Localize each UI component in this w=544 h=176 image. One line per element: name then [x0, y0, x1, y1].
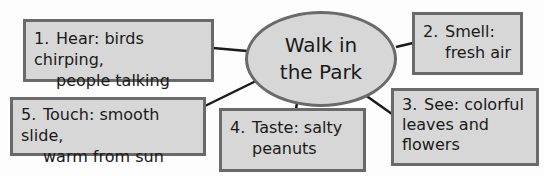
node-label: Taste: salty — [252, 118, 342, 137]
center-line-2: the Park — [280, 59, 362, 86]
node-continuation: peanuts — [230, 138, 355, 159]
node-hear: 1.Hear: birds chirping, people talking — [23, 19, 214, 82]
node-continuation: leaves and — [402, 115, 528, 135]
node-see: 3.See: colorful leaves and flowers — [391, 88, 539, 166]
node-number: 3. — [402, 95, 424, 115]
central-topic-ellipse: Walk in the Park — [245, 11, 397, 107]
node-continuation: people talking — [34, 70, 203, 91]
node-touch: 5.Touch: smooth slide, warm from sun — [10, 97, 206, 156]
node-label: Smell: — [445, 22, 495, 41]
node-continuation-2: flowers — [402, 135, 528, 155]
node-label: See: colorful — [424, 95, 524, 114]
node-smell: 2.Smell: fresh air — [412, 12, 523, 75]
node-number: 4. — [230, 117, 252, 138]
node-taste: 4.Taste: salty peanuts — [219, 108, 366, 172]
node-number: 5. — [21, 104, 43, 125]
node-number: 2. — [423, 21, 445, 42]
node-continuation: fresh air — [423, 42, 512, 63]
node-number: 1. — [34, 28, 56, 49]
node-continuation: warm from sun — [21, 146, 195, 167]
center-line-1: Walk in — [280, 32, 362, 59]
